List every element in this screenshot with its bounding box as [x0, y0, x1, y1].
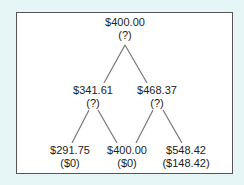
node-down-value: $341.61: [58, 84, 128, 97]
edge-down-dd: [72, 110, 89, 143]
node-up-value: $468.37: [122, 84, 192, 97]
edge-up-ud: [136, 110, 153, 143]
node-up: $468.37 (?): [122, 84, 192, 110]
node-up-up-value: $548.42: [151, 144, 221, 157]
node-down-payoff: (?): [58, 97, 128, 110]
node-up-up: $548.42 ($148.42): [151, 144, 221, 170]
node-up-up-payoff: ($148.42): [151, 157, 221, 170]
node-up-payoff: (?): [122, 97, 192, 110]
node-root: $400.00 (?): [90, 16, 160, 42]
node-root-value: $400.00: [90, 16, 160, 29]
node-down: $341.61 (?): [58, 84, 128, 110]
edge-down-ud: [98, 110, 117, 143]
edge-root-up: [125, 45, 147, 83]
edge-root-down: [104, 45, 125, 83]
node-root-payoff: (?): [90, 29, 160, 42]
edge-up-uu: [163, 110, 182, 143]
